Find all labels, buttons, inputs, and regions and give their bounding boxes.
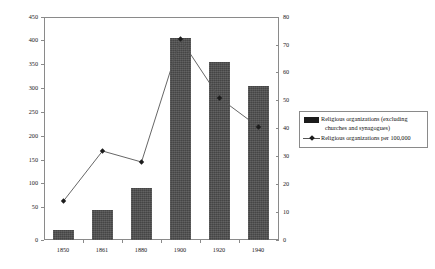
left-tick-mark — [41, 88, 44, 89]
left-tick-mark — [41, 136, 44, 137]
left-tick-label: 400 — [12, 37, 38, 43]
x-tick-label-1861: 1861 — [82, 247, 122, 253]
right-tick-mark — [276, 45, 279, 46]
bar-1940 — [248, 86, 269, 240]
bar-1880 — [131, 188, 152, 240]
plot-area — [44, 17, 279, 240]
right-tick-label: 0 — [283, 237, 309, 243]
left-tick-mark — [41, 240, 44, 241]
left-tick-mark — [41, 64, 44, 65]
legend-entry-bars: Religious organizations (excluding churc… — [303, 115, 424, 133]
left-tick-label: 50 — [12, 204, 38, 210]
left-tick-label: 150 — [12, 157, 38, 163]
left-tick-label: 300 — [12, 85, 38, 91]
legend-bar-swatch-icon — [303, 116, 321, 124]
bar-1900 — [170, 38, 191, 240]
right-tick-mark — [276, 184, 279, 185]
left-tick-mark — [41, 207, 44, 208]
right-tick-mark — [276, 100, 279, 101]
left-tick-mark — [41, 183, 44, 184]
legend-label-line: Religious organizations per 100,000 — [321, 134, 411, 143]
left-tick-mark — [41, 17, 44, 18]
left-tick-label: 100 — [12, 180, 38, 186]
chart-legend: Religious organizations (excluding churc… — [299, 111, 428, 148]
right-tick-mark — [276, 240, 279, 241]
right-tick-mark — [276, 212, 279, 213]
right-tick-label: 20 — [283, 181, 309, 187]
right-tick-label: 70 — [283, 42, 309, 48]
x-tick-mark — [83, 240, 84, 243]
left-tick-mark — [41, 112, 44, 113]
left-tick-label: 200 — [12, 133, 38, 139]
x-tick-mark — [200, 240, 201, 243]
right-tick-mark — [276, 128, 279, 129]
chart-container: 450 400 350 300 250 200 150 100 50 0 80 … — [0, 0, 435, 269]
bar-1850 — [53, 230, 74, 240]
left-tick-label: 0 — [12, 237, 38, 243]
x-tick-label-1850: 1850 — [43, 247, 83, 253]
left-tick-mark — [41, 40, 44, 41]
right-tick-mark — [276, 72, 279, 73]
right-tick-label: 80 — [283, 14, 309, 20]
left-tick-label: 250 — [12, 109, 38, 115]
legend-entry-line: Religious organizations per 100,000 — [303, 134, 424, 143]
right-tick-mark — [276, 156, 279, 157]
right-tick-label: 50 — [283, 97, 309, 103]
legend-label-bars: Religious organizations (excluding churc… — [321, 115, 408, 133]
legend-line-diamond-icon — [303, 135, 321, 143]
x-tick-label-1880: 1880 — [121, 247, 161, 253]
left-tick-label: 450 — [12, 14, 38, 20]
x-tick-label-1940: 1940 — [238, 247, 278, 253]
left-tick-mark — [41, 160, 44, 161]
x-tick-label-1900: 1900 — [160, 247, 200, 253]
right-tick-mark — [276, 17, 279, 18]
right-tick-label: 30 — [283, 153, 309, 159]
right-tick-label: 60 — [283, 69, 309, 75]
bar-1861 — [92, 210, 113, 240]
x-tick-label-1920: 1920 — [199, 247, 239, 253]
bar-1920 — [209, 62, 230, 240]
left-tick-label: 350 — [12, 61, 38, 67]
legend-label-bars-line2: churches and synagogues) — [321, 124, 408, 133]
x-tick-mark — [161, 240, 162, 243]
right-tick-label: 10 — [283, 209, 309, 215]
x-tick-mark — [239, 240, 240, 243]
legend-label-bars-line1: Religious organizations (excluding — [321, 115, 408, 122]
x-tick-mark — [122, 240, 123, 243]
